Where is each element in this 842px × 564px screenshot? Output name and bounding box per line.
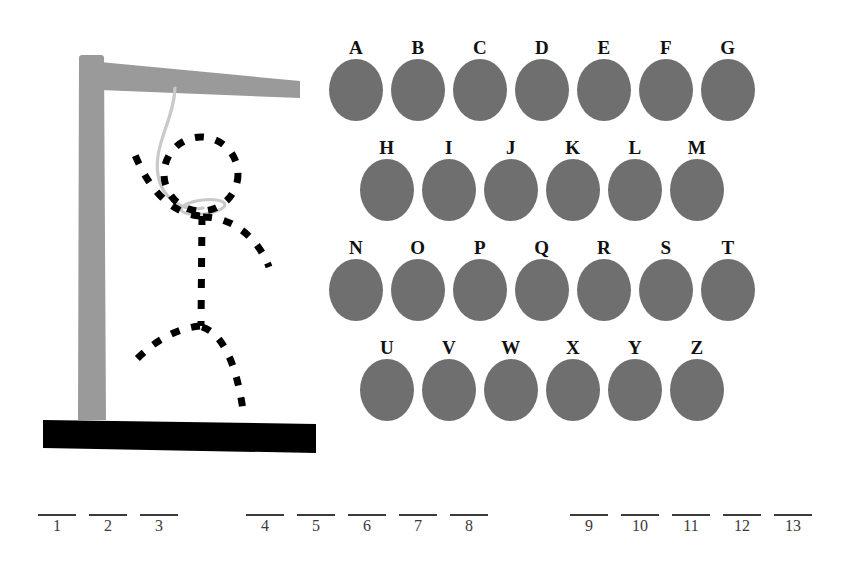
letter-button-f[interactable]: F — [635, 38, 697, 121]
letter-blob-v[interactable] — [422, 359, 476, 421]
letter-row: NOPQRST — [325, 238, 825, 338]
letter-blob-a[interactable] — [329, 59, 383, 121]
blank-slot-4[interactable]: 4 — [246, 498, 284, 535]
figure-torso — [201, 216, 202, 326]
letter-button-m[interactable]: M — [666, 138, 728, 221]
letter-label-t: T — [697, 238, 759, 257]
blank-number-10: 10 — [621, 516, 659, 535]
letter-label-w: W — [480, 338, 542, 357]
letter-label-n: N — [325, 238, 387, 257]
letter-button-n[interactable]: N — [325, 238, 387, 321]
letter-button-t[interactable]: T — [697, 238, 759, 321]
letter-button-d[interactable]: D — [511, 38, 573, 121]
letter-button-s[interactable]: S — [635, 238, 697, 321]
letter-label-i: I — [418, 138, 480, 157]
letter-blob-m[interactable] — [670, 159, 724, 221]
letter-button-w[interactable]: W — [480, 338, 542, 421]
letter-button-i[interactable]: I — [418, 138, 480, 221]
blank-number-6: 6 — [348, 516, 386, 535]
letter-button-z[interactable]: Z — [666, 338, 728, 421]
blank-slot-6[interactable]: 6 — [348, 498, 386, 535]
blank-slot-2[interactable]: 2 — [89, 498, 127, 535]
letter-blob-i[interactable] — [422, 159, 476, 221]
blank-slot-5[interactable]: 5 — [297, 498, 335, 535]
word-group: 123 — [38, 498, 178, 535]
figure-right-leg — [202, 327, 243, 410]
letter-blob-c[interactable] — [453, 59, 507, 121]
blank-letter-6 — [348, 498, 386, 514]
letter-blob-g[interactable] — [701, 59, 755, 121]
letter-button-l[interactable]: L — [604, 138, 666, 221]
blank-slot-8[interactable]: 8 — [450, 498, 488, 535]
blank-number-5: 5 — [297, 516, 335, 535]
letter-blob-q[interactable] — [515, 259, 569, 321]
letter-button-q[interactable]: Q — [511, 238, 573, 321]
letter-label-v: V — [418, 338, 480, 357]
letter-blob-o[interactable] — [391, 259, 445, 321]
letter-label-p: P — [449, 238, 511, 257]
letter-button-r[interactable]: R — [573, 238, 635, 321]
letter-blob-b[interactable] — [391, 59, 445, 121]
letter-blob-w[interactable] — [484, 359, 538, 421]
letter-button-j[interactable]: J — [480, 138, 542, 221]
letter-button-h[interactable]: H — [356, 138, 418, 221]
letter-button-a[interactable]: A — [325, 38, 387, 121]
letter-label-x: X — [542, 338, 604, 357]
blank-letter-4 — [246, 498, 284, 514]
letter-button-y[interactable]: Y — [604, 338, 666, 421]
letter-label-k: K — [542, 138, 604, 157]
letter-label-g: G — [697, 38, 759, 57]
letter-label-f: F — [635, 38, 697, 57]
blank-slot-12[interactable]: 12 — [723, 498, 761, 535]
blank-letter-12 — [723, 498, 761, 514]
letter-button-g[interactable]: G — [697, 38, 759, 121]
letter-button-b[interactable]: B — [387, 38, 449, 121]
letter-blob-y[interactable] — [608, 359, 662, 421]
letter-blob-l[interactable] — [608, 159, 662, 221]
blank-slot-10[interactable]: 10 — [621, 498, 659, 535]
letter-blob-p[interactable] — [453, 259, 507, 321]
letter-button-p[interactable]: P — [449, 238, 511, 321]
blank-number-8: 8 — [450, 516, 488, 535]
letter-button-e[interactable]: E — [573, 38, 635, 121]
letter-blob-n[interactable] — [329, 259, 383, 321]
blank-slot-1[interactable]: 1 — [38, 498, 76, 535]
letter-blob-j[interactable] — [484, 159, 538, 221]
blank-letter-7 — [399, 498, 437, 514]
letter-label-y: Y — [604, 338, 666, 357]
letter-button-u[interactable]: U — [356, 338, 418, 421]
letter-label-m: M — [666, 138, 728, 157]
letter-blob-t[interactable] — [701, 259, 755, 321]
blank-letter-11 — [672, 498, 710, 514]
blank-slot-9[interactable]: 9 — [570, 498, 608, 535]
letter-button-v[interactable]: V — [418, 338, 480, 421]
word-blanks: 12345678910111213 — [0, 498, 842, 558]
letter-blob-f[interactable] — [639, 59, 693, 121]
letter-blob-r[interactable] — [577, 259, 631, 321]
blank-number-13: 13 — [774, 516, 812, 535]
letter-blob-d[interactable] — [515, 59, 569, 121]
letter-label-q: Q — [511, 238, 573, 257]
letter-blob-h[interactable] — [360, 159, 414, 221]
figure-left-leg — [133, 326, 200, 363]
letter-blob-x[interactable] — [546, 359, 600, 421]
hangman-game: ABCDEFGHIJKLMNOPQRSTUVWXYZ 1234567891011… — [0, 0, 842, 564]
blank-number-3: 3 — [140, 516, 178, 535]
letter-blob-s[interactable] — [639, 259, 693, 321]
letter-blob-e[interactable] — [577, 59, 631, 121]
letter-blob-k[interactable] — [546, 159, 600, 221]
blank-letter-8 — [450, 498, 488, 514]
blank-slot-7[interactable]: 7 — [399, 498, 437, 535]
blank-slot-13[interactable]: 13 — [774, 498, 812, 535]
blank-number-11: 11 — [672, 516, 710, 535]
letter-button-o[interactable]: O — [387, 238, 449, 321]
letter-label-z: Z — [666, 338, 728, 357]
blank-slot-11[interactable]: 11 — [672, 498, 710, 535]
blank-slot-3[interactable]: 3 — [140, 498, 178, 535]
letter-button-c[interactable]: C — [449, 38, 511, 121]
letter-blob-u[interactable] — [360, 359, 414, 421]
letter-blob-z[interactable] — [670, 359, 724, 421]
letter-button-x[interactable]: X — [542, 338, 604, 421]
blank-number-7: 7 — [399, 516, 437, 535]
letter-button-k[interactable]: K — [542, 138, 604, 221]
